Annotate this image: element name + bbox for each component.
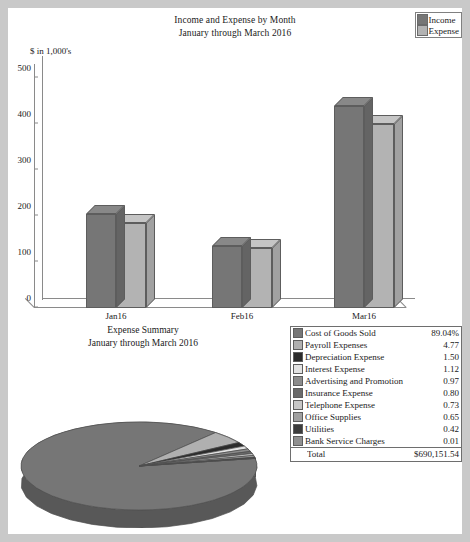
table-row-label: Advertising and Promotion [305, 376, 443, 386]
bar-side [364, 97, 373, 308]
y-tick-label: 500 [18, 63, 32, 73]
table-row: Advertising and Promotion0.97 [291, 375, 461, 387]
bar-side [242, 237, 251, 308]
y-tick-mark [34, 77, 38, 78]
table-row-total: Total $690,151.54 [291, 447, 461, 460]
table-row: Bank Service Charges0.01 [291, 435, 461, 447]
pie-chart-graphic [16, 418, 268, 528]
table-color-swatch [293, 328, 303, 338]
table-row-label: Bank Service Charges [305, 436, 443, 446]
bar-face [86, 214, 116, 308]
table-row: Cost of Goods Sold89.04% [291, 327, 461, 339]
table-row: Office Supplies0.65 [291, 411, 461, 423]
pie-chart: Expense Summary January through March 20… [8, 322, 278, 534]
bar-face [334, 106, 364, 308]
bar-chart-title-line1: Income and Expense by Month [8, 14, 462, 27]
total-label: Total [307, 449, 414, 459]
table-row-value: 1.50 [443, 352, 460, 362]
table-row-value: 0.73 [443, 400, 460, 410]
table-color-swatch [293, 364, 303, 374]
bar-side [116, 205, 125, 308]
x-label-jan16: Jan16 [106, 311, 127, 321]
table-color-swatch [293, 400, 303, 410]
pie-chart-title-line1: Expense Summary [8, 324, 278, 337]
x-label-feb16: Feb16 [231, 311, 254, 321]
y-tick-label: 400 [18, 109, 32, 119]
table-color-swatch [293, 388, 303, 398]
legend-item-income: Income [417, 14, 460, 25]
report-page: Income and Expense by Month January thro… [8, 8, 462, 534]
bar-side [272, 239, 281, 308]
legend-label-expense: Expense [429, 26, 460, 36]
plot-area: 0100200300400500 Jan16Feb16Mar16 [34, 64, 434, 308]
bar-side [394, 115, 403, 308]
expense-summary-table: Cost of Goods Sold89.04%Payroll Expenses… [290, 326, 462, 462]
table-color-swatch [293, 352, 303, 362]
table-color-swatch [293, 424, 303, 434]
table-row: Interest Expense1.12 [291, 363, 461, 375]
table-row: Insurance Expense0.80 [291, 387, 461, 399]
x-label-mar16: Mar16 [352, 311, 376, 321]
bar-feb16-income [212, 246, 242, 308]
bar-chart-title: Income and Expense by Month January thro… [8, 14, 462, 39]
table-row-label: Telephone Expense [305, 400, 443, 410]
table-color-swatch [293, 412, 303, 422]
table-row-value: 0.01 [443, 436, 460, 446]
y-tick-label: 0 [27, 293, 32, 303]
table-color-swatch [293, 436, 303, 446]
y-tick-label: 300 [18, 155, 32, 165]
bar-jan16-income [86, 214, 116, 308]
table-color-swatch [293, 340, 303, 350]
y-axis-line-back [42, 56, 43, 300]
y-tick-mark [34, 123, 38, 124]
table-row: Payroll Expenses4.77 [291, 339, 461, 351]
y-tick-label: 200 [18, 201, 32, 211]
table-row: Utilities0.42 [291, 423, 461, 435]
y-axis-line [34, 64, 35, 308]
table-row-label: Payroll Expenses [305, 340, 443, 350]
legend-swatch-expense [417, 25, 428, 36]
legend-swatch-income [417, 14, 428, 25]
table-row-label: Insurance Expense [305, 388, 443, 398]
bar-chart: Income and Expense by Month January thro… [8, 8, 462, 320]
table-row-value: 0.65 [443, 412, 460, 422]
legend-label-income: Income [429, 15, 456, 25]
table-row-value: 0.42 [443, 424, 460, 434]
pie-chart-title: Expense Summary January through March 20… [8, 324, 278, 349]
pie-chart-title-line2: January through March 2016 [8, 337, 278, 350]
table-row-label: Office Supplies [305, 412, 443, 422]
y-tick-mark [34, 215, 38, 216]
table-row: Depreciation Expense1.50 [291, 351, 461, 363]
bar-face [212, 246, 242, 308]
table-row-value: 89.04% [431, 328, 460, 338]
bar-chart-title-line2: January through March 2016 [8, 27, 462, 40]
bar-chart-legend: Income Expense [415, 12, 463, 38]
bar-side [146, 214, 155, 308]
y-axis-unit-label: $ in 1,000's [30, 46, 71, 56]
table-row-value: 0.97 [443, 376, 460, 386]
table-row-label: Depreciation Expense [305, 352, 443, 362]
y-tick-mark [34, 307, 38, 308]
table-row-value: 4.77 [443, 340, 460, 350]
y-tick-mark [34, 261, 38, 262]
y-tick-label: 100 [18, 247, 32, 257]
table-row-value: 0.80 [443, 388, 460, 398]
total-value: $690,151.54 [414, 449, 460, 459]
table-row: Telephone Expense0.73 [291, 399, 461, 411]
legend-item-expense: Expense [417, 25, 460, 36]
table-color-swatch [293, 376, 303, 386]
table-row-value: 1.12 [443, 364, 460, 374]
bar-mar16-income [334, 106, 364, 308]
table-row-label: Cost of Goods Sold [305, 328, 431, 338]
table-row-label: Interest Expense [305, 364, 443, 374]
table-row-label: Utilities [305, 424, 443, 434]
y-tick-mark [34, 169, 38, 170]
